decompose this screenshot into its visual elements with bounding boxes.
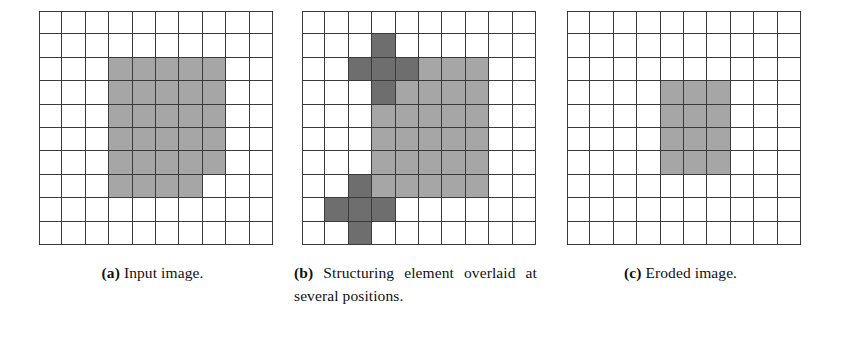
grid-cell-empty [39, 34, 62, 57]
grid-cell-empty [731, 34, 754, 57]
grid-cell-empty [590, 151, 613, 174]
grid-cell-object [396, 128, 419, 151]
grid-cell-empty [590, 105, 613, 128]
grid-cell-empty [567, 175, 590, 198]
grid-cell-empty [513, 105, 536, 128]
grid-cell-empty [156, 222, 179, 245]
grid-cell-empty [778, 151, 801, 174]
grid-cell-object [396, 81, 419, 104]
grid-cell-empty [62, 81, 85, 104]
panel-eroded-image [559, 0, 802, 245]
grid-cell-empty [39, 175, 62, 198]
grid-cell-object [109, 81, 132, 104]
grid-cell-object [179, 58, 202, 81]
grid-cell-empty [661, 198, 684, 221]
grid-cell-empty [707, 34, 730, 57]
grid-cell-empty [39, 128, 62, 151]
grid-cell-empty [661, 58, 684, 81]
grid-cell-empty [754, 128, 777, 151]
grid-cell-empty [513, 128, 536, 151]
grid-cell-empty [684, 58, 707, 81]
grid-cell-empty [614, 81, 637, 104]
grid-cell-empty [86, 105, 109, 128]
grid-cell-empty [637, 81, 660, 104]
grid-cell-structuring-element [372, 198, 395, 221]
grid-cell-empty [614, 58, 637, 81]
grid-cell-empty [442, 34, 465, 57]
grid-cell-empty [707, 11, 730, 34]
grid-cell-object [179, 151, 202, 174]
grid-cell-empty [302, 222, 325, 245]
grid-cell-empty [754, 175, 777, 198]
grid-cell-object [133, 58, 156, 81]
grid-cell-empty [731, 58, 754, 81]
grid-cell-empty [707, 175, 730, 198]
caption-text-c: Eroded image. [645, 264, 737, 281]
grid-cell-object [156, 151, 179, 174]
grid-cell-object [156, 58, 179, 81]
grid-cell-empty [419, 34, 442, 57]
grid-cell-empty [778, 198, 801, 221]
grid-cell-empty [637, 11, 660, 34]
grid-cell-empty [179, 198, 202, 221]
grid-cell-empty [203, 222, 226, 245]
grid-cell-object [419, 128, 442, 151]
grid-cell-empty [637, 105, 660, 128]
grid-cell-empty [637, 128, 660, 151]
grid-cell-object [466, 105, 489, 128]
grid-cell-object [396, 151, 419, 174]
grid-cell-empty [614, 151, 637, 174]
grid-cell-empty [778, 58, 801, 81]
caption-tag-a: (a) [102, 264, 124, 281]
grid-cell-empty [349, 105, 372, 128]
grid-cell-empty [614, 198, 637, 221]
grid-cell-empty [86, 198, 109, 221]
grid-cell-empty [684, 34, 707, 57]
grid-cell-empty [637, 198, 660, 221]
grid-cell-empty [567, 222, 590, 245]
grid-cell-empty [325, 105, 348, 128]
grid-cell-object [661, 128, 684, 151]
grid-cell-object [109, 175, 132, 198]
caption-panel-c: (c)Eroded image. [559, 262, 802, 285]
grid-cell-empty [250, 34, 273, 57]
grid-cell-object [442, 175, 465, 198]
grid-cell-empty [567, 128, 590, 151]
grid-cell-object [442, 128, 465, 151]
grid-cell-empty [250, 222, 273, 245]
grid-cell-object [156, 175, 179, 198]
grid-cell-empty [489, 81, 512, 104]
grid-cell-empty [179, 222, 202, 245]
grid-cell-empty [590, 198, 613, 221]
grid-cell-empty [109, 222, 132, 245]
grid-cell-structuring-element [349, 58, 372, 81]
grid-cell-empty [513, 175, 536, 198]
panel-structuring-element [294, 0, 537, 245]
grid-cell-empty [419, 198, 442, 221]
grid-cell-empty [684, 175, 707, 198]
grid-cell-empty [684, 222, 707, 245]
grid-cell-object [684, 105, 707, 128]
grid-cell-empty [567, 58, 590, 81]
grid-cell-object [133, 175, 156, 198]
grid-cell-empty [226, 105, 249, 128]
grid-cell-object [179, 105, 202, 128]
grid-cell-object [372, 151, 395, 174]
grid-cell-empty [614, 128, 637, 151]
grid-cell-structuring-element [372, 81, 395, 104]
grid-cell-empty [39, 198, 62, 221]
grid-cell-empty [133, 198, 156, 221]
grid-cell-empty [86, 58, 109, 81]
grid-cell-empty [109, 198, 132, 221]
grid-cell-empty [419, 222, 442, 245]
grid-cell-empty [302, 11, 325, 34]
grid-cell-empty [590, 11, 613, 34]
grid-cell-empty [590, 175, 613, 198]
grid-cell-object [466, 175, 489, 198]
grid-cell-empty [302, 81, 325, 104]
grid-cell-object [396, 175, 419, 198]
grid-cell-object [109, 128, 132, 151]
grid-cell-empty [513, 34, 536, 57]
grid-cell-empty [567, 151, 590, 174]
panel-input-image [31, 0, 274, 245]
